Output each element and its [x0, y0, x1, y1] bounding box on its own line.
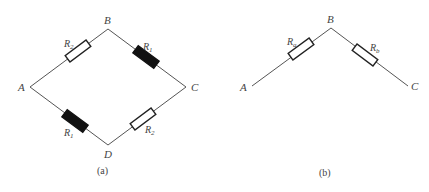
- resistor-label-rb: Rb: [369, 42, 380, 55]
- resistor-label-r2-ab: R2: [63, 38, 74, 51]
- resistor-label-ra: Ra: [286, 36, 297, 49]
- node-label-b-b: B: [327, 13, 334, 25]
- panel-a: A B C D R2 R1 R1 R2 (a): [17, 14, 199, 177]
- node-label-b: B: [104, 14, 111, 26]
- resistor-label-r2-dc: R2: [144, 124, 155, 137]
- node-label-d: D: [103, 148, 112, 160]
- circuit-diagram: A B C D R2 R1 R1 R2 (a) A B C Ra Rb (b): [0, 0, 429, 192]
- node-label-a-b: A: [239, 81, 247, 93]
- resistor-r2-dc: [130, 108, 156, 130]
- node-label-a: A: [17, 81, 25, 93]
- resistor-label-r1-ad: R1: [63, 127, 74, 140]
- panel-b: A B C Ra Rb (b): [239, 13, 419, 179]
- node-label-c: C: [191, 81, 199, 93]
- caption-a: (a): [97, 165, 108, 177]
- node-label-c-b: C: [411, 80, 419, 92]
- caption-b: (b): [319, 167, 331, 179]
